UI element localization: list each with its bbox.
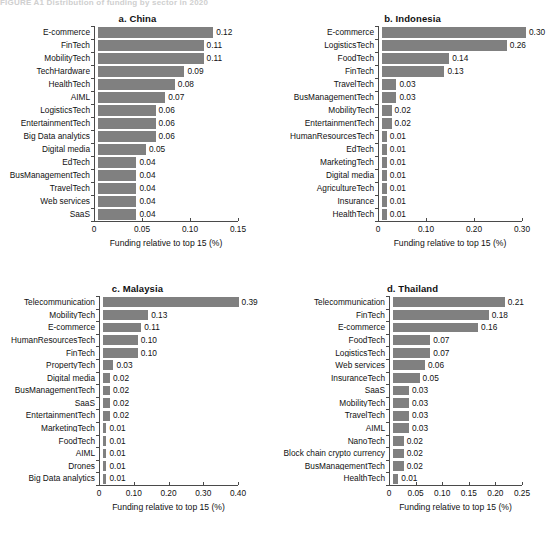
value-label: 0.06 bbox=[156, 106, 175, 114]
category-label: Digital media bbox=[0, 145, 94, 153]
plot-area: E-commerce0.12FinTech0.11MobilityTech0.1… bbox=[0, 26, 275, 221]
category-label: LogisticsTech bbox=[0, 106, 94, 114]
bar bbox=[393, 449, 404, 459]
y-axis-line bbox=[94, 26, 95, 221]
panel-title: a. China bbox=[0, 8, 275, 24]
bar-track: 0.07 bbox=[94, 91, 275, 104]
category-label: EntertainmentTech bbox=[0, 119, 94, 127]
bar-rows: E-commerce0.12FinTech0.11MobilityTech0.1… bbox=[0, 26, 275, 221]
category-label: EdTech bbox=[275, 145, 378, 153]
bar bbox=[382, 27, 526, 37]
value-label: 0.01 bbox=[387, 171, 406, 179]
value-label: 0.01 bbox=[387, 158, 406, 166]
bar-row: HumanResourcesTech0.10 bbox=[0, 334, 275, 347]
bar-row: Block chain crypto currency0.02 bbox=[275, 447, 550, 460]
y-axis-tick bbox=[375, 208, 378, 209]
category-label: Block chain crypto currency bbox=[275, 449, 389, 457]
bar-row: MarketingTech0.01 bbox=[0, 422, 275, 435]
bar-row: BusManagementTech0.02 bbox=[275, 460, 550, 473]
y-axis-tick bbox=[375, 91, 378, 92]
bar bbox=[393, 423, 409, 433]
bar-row: NanoTech0.02 bbox=[275, 435, 550, 448]
x-axis-tick bbox=[238, 218, 239, 221]
bar-row: Digital media0.01 bbox=[275, 169, 550, 182]
value-label: 0.04 bbox=[136, 197, 155, 205]
y-axis-tick bbox=[91, 143, 94, 144]
value-label: 0.01 bbox=[387, 197, 406, 205]
x-tick-label: 0.05 bbox=[122, 224, 162, 234]
bar-row: BusManagementTech0.03 bbox=[275, 91, 550, 104]
x-axis-tick bbox=[426, 218, 427, 221]
bar bbox=[103, 398, 110, 408]
value-label: 0.02 bbox=[392, 106, 411, 114]
y-axis-tick bbox=[91, 182, 94, 183]
bar-row: E-commerce0.16 bbox=[275, 321, 550, 334]
value-label: 0.03 bbox=[409, 399, 428, 407]
category-label: HealthTech bbox=[0, 80, 94, 88]
bar-row: FinTech0.13 bbox=[275, 65, 550, 78]
y-axis-tick bbox=[375, 169, 378, 170]
value-label: 0.01 bbox=[106, 462, 125, 470]
bar-rows: Telecommunication0.21FinTech0.18E-commer… bbox=[275, 296, 550, 485]
y-axis-tick bbox=[375, 182, 378, 183]
bar-row: PropertyTech0.03 bbox=[0, 359, 275, 372]
bar-row: TravelTech0.04 bbox=[0, 182, 275, 195]
y-axis-tick bbox=[91, 91, 94, 92]
x-axis-tick bbox=[474, 218, 475, 221]
bar-track: 0.10 bbox=[99, 346, 275, 359]
bar-row: Telecommunication0.39 bbox=[0, 296, 275, 309]
x-axis-tick bbox=[190, 218, 191, 221]
bar-row: EntertainmentTech0.06 bbox=[0, 117, 275, 130]
value-label: 0.10 bbox=[138, 336, 157, 344]
bar-track: 0.13 bbox=[99, 309, 275, 322]
value-label: 0.08 bbox=[175, 80, 194, 88]
x-tick-label: 0.20 bbox=[454, 224, 494, 234]
x-axis-tick bbox=[522, 218, 523, 221]
bar bbox=[103, 386, 110, 396]
bar bbox=[103, 297, 239, 307]
bar-row: SaaS0.03 bbox=[275, 384, 550, 397]
bar-row: BusManagementTech0.04 bbox=[0, 169, 275, 182]
value-label: 0.02 bbox=[110, 374, 129, 382]
bar-row: FinTech0.11 bbox=[0, 39, 275, 52]
x-tick-label: 0 bbox=[74, 224, 114, 234]
bar-row: AIML0.01 bbox=[0, 447, 275, 460]
x-axis-tick bbox=[522, 482, 523, 485]
y-axis-tick bbox=[386, 409, 389, 410]
category-label: Telecommunication bbox=[0, 298, 99, 306]
bar bbox=[393, 398, 409, 408]
category-label: E-commerce bbox=[275, 28, 378, 36]
bar bbox=[98, 66, 184, 76]
x-axis-title: Funding relative to top 15 (%) bbox=[94, 238, 238, 248]
bar bbox=[393, 323, 478, 333]
category-label: BusManagementTech bbox=[275, 93, 378, 101]
bar-row: MobilityTech0.11 bbox=[0, 52, 275, 65]
bar-row: BusManagementTech0.02 bbox=[0, 384, 275, 397]
bar-track: 0.30 bbox=[378, 26, 550, 39]
y-axis-tick bbox=[96, 422, 99, 423]
y-axis-tick bbox=[96, 296, 99, 297]
value-label: 0.30 bbox=[526, 28, 545, 36]
bar-track: 0.02 bbox=[389, 435, 550, 448]
category-label: Web services bbox=[275, 361, 389, 369]
y-axis-line bbox=[99, 296, 100, 485]
category-label: MobilityTech bbox=[0, 311, 99, 319]
bar-row: FoodTech0.14 bbox=[275, 52, 550, 65]
bar-row: EntertainmentTech0.02 bbox=[0, 409, 275, 422]
bar-track: 0.06 bbox=[94, 117, 275, 130]
value-label: 0.03 bbox=[113, 361, 132, 369]
x-axis-tick bbox=[142, 218, 143, 221]
bar-track: 0.39 bbox=[99, 296, 275, 309]
x-axis-tick bbox=[134, 482, 135, 485]
panel-title: c. Malaysia bbox=[0, 278, 275, 294]
x-axis-line bbox=[389, 485, 522, 486]
y-axis-tick bbox=[375, 78, 378, 79]
bar bbox=[393, 411, 409, 421]
y-axis-tick bbox=[96, 409, 99, 410]
bar bbox=[103, 348, 138, 358]
bar-track: 0.02 bbox=[378, 104, 550, 117]
bar-track: 0.04 bbox=[94, 195, 275, 208]
y-axis-tick bbox=[91, 78, 94, 79]
bar bbox=[393, 310, 489, 320]
category-label: FoodTech bbox=[275, 54, 378, 62]
